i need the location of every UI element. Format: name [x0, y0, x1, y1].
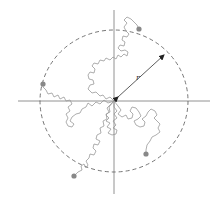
- walk-end-bottom-right: [143, 151, 148, 156]
- diagram-svg: r: [0, 0, 221, 199]
- walk-path-top-right: [88, 17, 139, 101]
- walk-end-bottom-left: [71, 173, 76, 178]
- walk-end-top-right: [136, 26, 141, 31]
- walk-end-left: [40, 81, 45, 86]
- random-walk-diagram: r: [0, 0, 221, 199]
- radius-arrow: [118, 55, 164, 97]
- radius-label: r: [136, 73, 141, 82]
- walk-path-bottom-right: [114, 101, 160, 154]
- walk-path-center-down: [106, 101, 117, 135]
